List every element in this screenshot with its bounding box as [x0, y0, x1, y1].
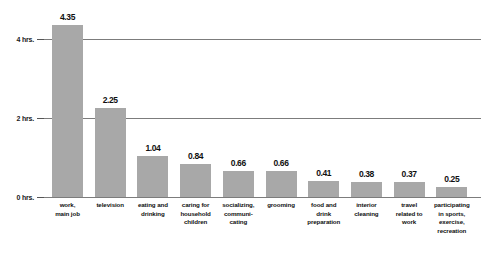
bar-value-label: 0.25 [430, 174, 474, 184]
x-axis-category-label: grooming [257, 201, 305, 210]
x-axis-category-label: travelrelated towork [385, 201, 433, 227]
bar [351, 182, 382, 197]
category-label-line: interior [342, 201, 390, 210]
bar [394, 182, 425, 197]
category-label-line: grooming [257, 201, 305, 210]
bar [223, 171, 254, 197]
bar [137, 156, 168, 197]
bar-value-label: 1.04 [131, 143, 175, 153]
y-axis-tick-label: 4 hrs. [0, 36, 34, 43]
category-label-line: travel [385, 201, 433, 210]
bar-value-label: 2.25 [88, 95, 132, 105]
gridline [44, 39, 481, 40]
axis-baseline [44, 197, 481, 198]
bar [180, 164, 211, 197]
bar [308, 181, 339, 197]
bar [52, 25, 83, 197]
plot-area: 0 hrs.2 hrs.4 hrs. 4.35work,main job2.25… [0, 0, 500, 258]
category-label-line: preparation [300, 218, 348, 227]
x-axis-category-label: participatingin sports,exercise,recreati… [428, 201, 476, 235]
x-axis-category-label: caring forhouseholdchildren [172, 201, 220, 227]
category-label-line: work, [44, 201, 92, 210]
bar-value-label: 0.66 [216, 158, 260, 168]
category-label-line: caring for [172, 201, 220, 210]
y-axis-tick-label: 2 hrs. [0, 115, 34, 122]
category-label-line: cleaning [342, 210, 390, 219]
category-label-line: recreation [428, 227, 476, 236]
category-label-line: socializing, [214, 201, 262, 210]
bar [266, 171, 297, 197]
bar-value-label: 0.38 [344, 169, 388, 179]
category-label-line: children [172, 218, 220, 227]
category-label-line: participating [428, 201, 476, 210]
x-axis-category-label: interiorcleaning [342, 201, 390, 218]
y-axis-tick-label: 0 hrs. [0, 194, 34, 201]
bar-chart: 0 hrs.2 hrs.4 hrs. 4.35work,main job2.25… [0, 0, 500, 258]
category-label-line: household [172, 210, 220, 219]
y-axis-tick [37, 39, 44, 40]
category-label-line: drinking [129, 210, 177, 219]
category-label-line: drink [300, 210, 348, 219]
bar-value-label: 4.35 [46, 12, 90, 22]
bar-value-label: 0.66 [259, 158, 303, 168]
bar-value-label: 0.84 [174, 151, 218, 161]
y-axis-tick [37, 118, 44, 119]
x-axis-category-label: work,main job [44, 201, 92, 218]
x-axis-category-label: television [86, 201, 134, 210]
category-label-line: eating and [129, 201, 177, 210]
x-axis-category-label: eating anddrinking [129, 201, 177, 218]
x-axis-category-label: food anddrinkpreparation [300, 201, 348, 227]
bar-value-label: 0.37 [387, 169, 431, 179]
category-label-line: exercise, [428, 218, 476, 227]
category-label-line: main job [44, 210, 92, 219]
bar [436, 187, 467, 197]
x-axis-category-label: socializing,communi-cating [214, 201, 262, 227]
y-axis-tick [37, 197, 44, 198]
category-label-line: in sports, [428, 210, 476, 219]
bar-value-label: 0.41 [302, 168, 346, 178]
bar [95, 108, 126, 197]
category-label-line: work [385, 218, 433, 227]
category-label-line: communi- [214, 210, 262, 219]
category-label-line: related to [385, 210, 433, 219]
category-label-line: television [86, 201, 134, 210]
category-label-line: cating [214, 218, 262, 227]
category-label-line: food and [300, 201, 348, 210]
